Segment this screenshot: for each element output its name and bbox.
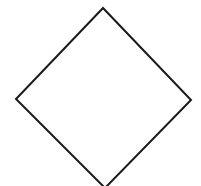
diagram-canvas	[0, 0, 201, 186]
diamond-shape[interactable]	[16, 8, 191, 186]
diagram-svg	[0, 0, 201, 186]
